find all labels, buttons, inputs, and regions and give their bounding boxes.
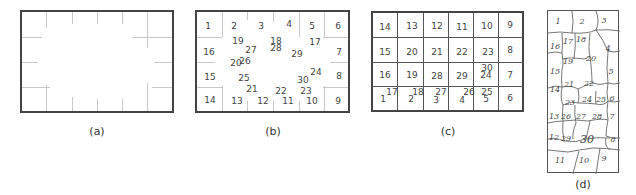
label-9: 9 [335, 97, 341, 106]
label-11: 11 [282, 97, 293, 106]
label-21: 21 [246, 85, 257, 94]
label-4: 4 [286, 20, 292, 29]
sketch-label: 28 [592, 112, 602, 121]
label-14: 14 [204, 96, 215, 105]
cell-label: 26 [463, 88, 474, 97]
label-23: 23 [300, 87, 311, 96]
tick [222, 12, 223, 37]
caption-a: (a) [89, 125, 104, 138]
cell-label: 25 [481, 88, 492, 97]
tick [197, 87, 222, 88]
grid-line [373, 62, 522, 63]
cell-label: 13 [406, 22, 417, 31]
tick [132, 37, 172, 38]
sketch-label: 4 [605, 44, 610, 53]
cell-label: 19 [406, 71, 417, 80]
label-6: 6 [335, 22, 341, 31]
label-16: 16 [203, 48, 214, 57]
cell-label: 6 [507, 94, 513, 103]
tick [72, 12, 73, 24]
cell-label: 24 [480, 71, 491, 80]
cell-label: 18 [412, 88, 423, 97]
cell-label: 20 [406, 48, 417, 57]
tick [197, 37, 222, 38]
tick [22, 37, 42, 38]
cell-label: 16 [379, 71, 390, 80]
cell-label: 11 [456, 23, 467, 32]
panel-a-frame [20, 10, 174, 113]
tick [299, 101, 300, 111]
sketch-label: 16 [550, 42, 560, 51]
grid-line [373, 37, 522, 38]
tick [147, 83, 148, 111]
sketch-label: 14 [550, 85, 560, 94]
cell-label: 8 [507, 46, 513, 55]
sketch-label: 10 [579, 156, 589, 165]
sketch-label: 29 [561, 134, 571, 143]
tick [323, 37, 348, 38]
label-7: 7 [336, 48, 342, 57]
label-19: 19 [232, 37, 243, 46]
sketch-label: 2 [579, 17, 584, 26]
sketch-label: 9 [601, 154, 606, 163]
label-5: 5 [309, 22, 315, 31]
cell-label: 17 [386, 88, 397, 97]
cell-label: 4 [459, 96, 465, 105]
label-22: 22 [275, 87, 286, 96]
label-15: 15 [204, 73, 215, 82]
tick [247, 101, 248, 111]
cell-label: 14 [379, 23, 390, 32]
label-27: 27 [245, 46, 256, 55]
tick [222, 86, 223, 111]
label-12: 12 [257, 97, 268, 106]
tick [46, 12, 47, 28]
sketch-label: 22 [584, 79, 594, 88]
tick [324, 86, 325, 111]
sketch-label: 19 [563, 57, 573, 66]
cell-label: 29 [456, 72, 467, 81]
sketch-label: 30 [580, 133, 594, 146]
sketch-label: 15 [550, 67, 560, 76]
caption-b: (b) [265, 125, 281, 138]
sketch-label: 5 [608, 67, 613, 76]
label-24: 24 [310, 68, 321, 77]
tick [330, 62, 348, 63]
sketch-label: 12 [549, 133, 559, 142]
tick [299, 12, 300, 37]
caption-c: (c) [441, 125, 456, 138]
cell-label: 21 [431, 48, 442, 57]
tick [122, 99, 123, 111]
label-10: 10 [306, 97, 317, 106]
tick [72, 97, 73, 111]
tick [97, 12, 98, 24]
tick [22, 87, 50, 88]
sketch-label: 3 [601, 16, 606, 25]
sketch-label: 8 [610, 135, 615, 144]
label-28: 28 [270, 44, 281, 53]
panel-b-frame [195, 10, 350, 113]
cell-label: 28 [431, 72, 442, 81]
cell-label: 12 [431, 22, 442, 31]
label-13: 13 [231, 97, 242, 106]
caption-d: (d) [575, 178, 591, 191]
cell-label: 1 [380, 95, 386, 104]
sketch-label: 25 [596, 95, 606, 104]
cell-label: 10 [481, 22, 492, 31]
label-1: 1 [205, 22, 211, 31]
sketch-label: 1 [555, 17, 560, 26]
sketch-label: 11 [555, 156, 565, 165]
label-29: 29 [291, 50, 302, 59]
label-2: 2 [231, 22, 237, 31]
tick [247, 12, 248, 20]
panel-c-grid [371, 11, 524, 112]
cell-label: 23 [482, 48, 493, 57]
tick [152, 87, 172, 88]
sketch-label: 17 [563, 37, 573, 46]
sketch-label: 24 [582, 95, 592, 104]
cell-label: 22 [456, 48, 467, 57]
label-30: 30 [297, 76, 308, 85]
label-3: 3 [258, 22, 264, 31]
sketch-label: 6 [609, 94, 614, 103]
sketch-label: 27 [576, 112, 586, 121]
tick [122, 12, 123, 24]
